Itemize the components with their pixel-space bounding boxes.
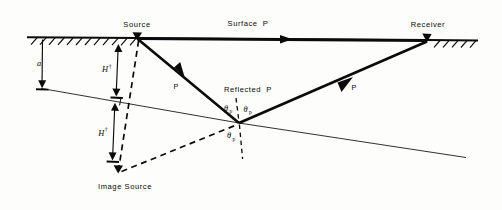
interface-line bbox=[41, 88, 466, 157]
receiver-label: Receiver bbox=[411, 20, 445, 29]
dimension-h-lower-line bbox=[113, 105, 115, 158]
surface-p-label: Surface P bbox=[228, 19, 269, 28]
normal-line-upper bbox=[236, 98, 239, 122]
reflected-p-ray bbox=[239, 42, 427, 124]
image-source-to-reflection bbox=[122, 124, 239, 171]
svg-text:θ: θ bbox=[224, 104, 228, 113]
image-source-label: Image Source bbox=[98, 182, 152, 191]
normal-line-lower bbox=[239, 125, 242, 160]
dimension-h-upper-line bbox=[116, 46, 118, 94]
svg-text:†: † bbox=[105, 125, 109, 132]
dimension-a-label: a bbox=[37, 59, 41, 68]
theta-p-image-label: θ p bbox=[227, 131, 235, 141]
svg-text:p: p bbox=[229, 108, 232, 114]
seismic-ray-path-figure: a H † H † bbox=[0, 0, 502, 210]
svg-text:†: † bbox=[108, 62, 112, 69]
dimension-h-lower-tick bbox=[107, 162, 119, 163]
surface-ray-arrowhead bbox=[280, 35, 293, 44]
ray-paths-group bbox=[133, 32, 432, 123]
dimension-h-upper-group: H † bbox=[101, 44, 123, 98]
image-source-marker bbox=[114, 165, 123, 173]
text-labels-group: Source Receiver Surface P Reflected P Im… bbox=[98, 19, 445, 191]
svg-text:θ: θ bbox=[244, 105, 248, 114]
subsurface-interface-group bbox=[41, 88, 466, 157]
dimension-h-upper-tick bbox=[111, 98, 123, 99]
figure-canvas: a H † H † bbox=[0, 0, 502, 210]
theta-p-reflected-label: θ p bbox=[244, 105, 252, 115]
dimension-a-line bbox=[42, 40, 43, 87]
svg-text:θ: θ bbox=[227, 131, 231, 140]
dimension-a-arrowhead bbox=[38, 80, 46, 88]
reflected-p-label: Reflected P bbox=[224, 85, 272, 94]
dimension-h-upper-label: H † bbox=[101, 62, 112, 75]
dimension-h-lower-group: H † bbox=[97, 103, 119, 162]
dimension-h-lower-arrow-bottom bbox=[109, 152, 117, 160]
dimension-a-group: a bbox=[36, 40, 49, 90]
svg-text:p: p bbox=[249, 109, 252, 115]
dimension-h-lower-label: H † bbox=[97, 125, 108, 138]
incident-ray-p-label: P bbox=[173, 82, 178, 91]
svg-text:p: p bbox=[232, 136, 235, 142]
source-to-image-vertical bbox=[118, 41, 138, 171]
dimension-h-lower-arrow-top bbox=[111, 103, 119, 111]
reflected-ray-p-label: P bbox=[351, 83, 356, 92]
source-label: Source bbox=[123, 20, 150, 29]
dimension-h-upper-arrow-bottom bbox=[112, 89, 120, 97]
